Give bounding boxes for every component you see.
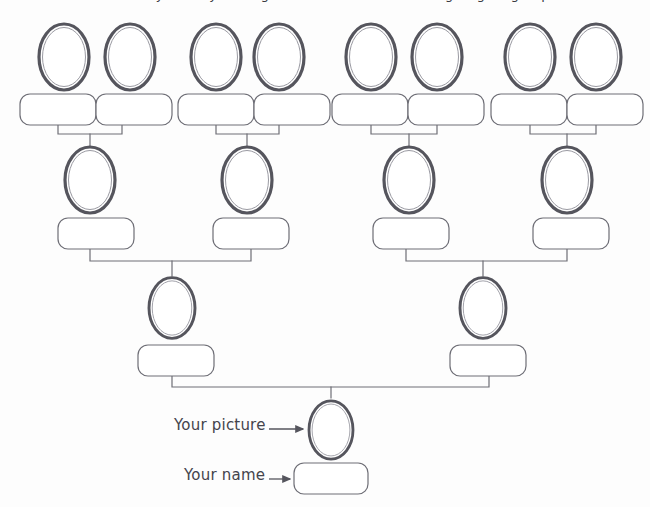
generation-parents [138, 278, 526, 376]
connector-parents-to-self [172, 376, 489, 398]
photo-frame-gp-2[interactable] [222, 147, 272, 213]
name-box-ggp-7[interactable] [491, 94, 567, 125]
self-name-box[interactable] [294, 463, 368, 494]
name-box-parent-1[interactable] [138, 345, 214, 376]
name-box-ggp-8[interactable] [567, 94, 643, 125]
photo-frame-ggp-6[interactable] [412, 24, 462, 90]
connector-gp-pair-right [406, 249, 567, 276]
name-box-gp-2[interactable] [213, 218, 289, 249]
connector-gp-pair-left [90, 249, 251, 276]
connector-ggp-pair-2 [216, 125, 279, 147]
self-photo-frame[interactable] [309, 401, 353, 459]
name-box-gp-1[interactable] [58, 218, 134, 249]
photo-frame-gp-3[interactable] [384, 147, 434, 213]
name-box-parent-2[interactable] [450, 345, 526, 376]
label-your-picture: Your picture [174, 416, 266, 434]
photo-frame-gp-1[interactable] [65, 147, 115, 213]
generation-grandparents [58, 147, 609, 249]
photo-frame-ggp-7[interactable] [505, 24, 555, 90]
photo-frame-parent-2[interactable] [460, 278, 506, 339]
family-tree-worksheet: Fill in the family tree by writing in th… [0, 0, 650, 507]
name-box-ggp-1[interactable] [20, 94, 96, 125]
photo-frame-parent-1[interactable] [149, 278, 195, 339]
connector-ggp-pair-1 [58, 125, 122, 147]
name-box-gp-4[interactable] [533, 218, 609, 249]
name-box-ggp-5[interactable] [332, 94, 408, 125]
generation-great-grandparents [20, 24, 643, 125]
photo-frame-ggp-4[interactable] [254, 24, 304, 90]
photo-frame-gp-4[interactable] [542, 147, 592, 213]
label-your-name: Your name [184, 466, 265, 484]
photo-frame-ggp-5[interactable] [346, 24, 396, 90]
photo-frame-ggp-2[interactable] [105, 24, 155, 90]
family-tree-diagram [0, 0, 650, 507]
name-box-ggp-6[interactable] [408, 94, 484, 125]
photo-frame-ggp-8[interactable] [571, 24, 621, 90]
connector-ggp-pair-3 [371, 125, 437, 147]
name-box-ggp-3[interactable] [178, 94, 254, 125]
photo-frame-ggp-1[interactable] [39, 24, 89, 90]
name-box-gp-3[interactable] [373, 218, 449, 249]
photo-frame-ggp-3[interactable] [191, 24, 241, 90]
connector-ggp-pair-4 [530, 125, 596, 147]
generation-self [294, 401, 368, 494]
name-box-ggp-4[interactable] [254, 94, 330, 125]
name-box-ggp-2[interactable] [96, 94, 172, 125]
